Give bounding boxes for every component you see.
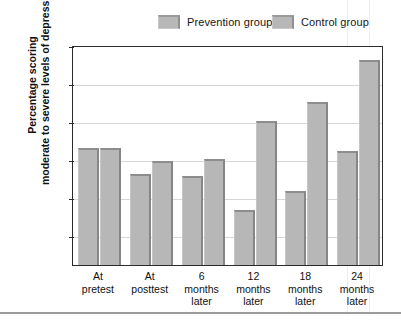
x-axis-label-line: At	[124, 270, 176, 283]
x-axis-label: 24monthslater	[331, 270, 383, 308]
legend-item-prevention-group: Prevention group	[158, 12, 272, 32]
chart-legend: Prevention group Control group	[72, 12, 383, 34]
x-axis-label-line: At	[72, 270, 124, 283]
chart-figure: Prevention group Control group Percentag…	[0, 0, 401, 325]
x-axis-label: 6monthslater	[176, 270, 228, 308]
legend-label-prevention-group: Prevention group	[187, 16, 272, 28]
bar-group	[182, 47, 224, 265]
x-axis-label: Atpretest	[72, 270, 124, 295]
bar-group	[285, 47, 327, 265]
bar-control	[359, 60, 380, 265]
bar-group	[78, 47, 120, 265]
x-axis-label-line: months	[176, 283, 228, 296]
x-axis-label: 12monthslater	[227, 270, 279, 308]
x-axis-label-line: later	[227, 295, 279, 308]
x-axis-label-line: later	[176, 295, 228, 308]
bar-group	[337, 47, 379, 265]
x-axis-label-line: posttest	[124, 283, 176, 296]
legend-label-control-group: Control group	[301, 16, 369, 28]
bar-series-layer	[73, 47, 382, 265]
y-axis-title: Percentage scoring moderate to severe le…	[22, 0, 56, 190]
x-axis-label-line: 18	[279, 270, 331, 283]
x-axis-label-line: 6	[176, 270, 228, 283]
bar-prevention	[78, 148, 99, 265]
bar-prevention	[285, 191, 306, 265]
bar-group	[130, 47, 172, 265]
x-axis-label-line: later	[331, 295, 383, 308]
bar-control	[256, 121, 277, 265]
x-axis-label-line: pretest	[72, 283, 124, 296]
bar-prevention	[130, 174, 151, 265]
legend-swatch-icon	[158, 15, 180, 29]
x-axis-label-line: later	[279, 295, 331, 308]
bar-control	[152, 161, 173, 265]
bar-control	[204, 159, 225, 265]
y-axis-title-line-1: Percentage scoring	[26, 36, 39, 133]
bar-control	[100, 148, 121, 265]
x-axis-label-line: months	[331, 283, 383, 296]
y-axis-title-line-2: moderate to severe levels of depression	[39, 0, 52, 185]
bar-prevention	[337, 151, 358, 265]
x-axis-label-line: 12	[227, 270, 279, 283]
x-axis-labels: AtpretestAtposttest6monthslater12monthsl…	[72, 270, 383, 314]
plot-area: 01020304050	[72, 46, 383, 266]
legend-item-control-group: Control group	[272, 12, 369, 32]
footer-divider	[0, 312, 401, 314]
x-axis-label-line: 24	[331, 270, 383, 283]
x-axis-label-line: months	[227, 283, 279, 296]
bar-prevention	[234, 210, 255, 265]
x-axis-label: Atposttest	[124, 270, 176, 295]
legend-swatch-icon	[272, 15, 294, 29]
bar-control	[307, 102, 328, 265]
x-axis-label-line: months	[279, 283, 331, 296]
bar-group	[234, 47, 276, 265]
x-axis-label: 18monthslater	[279, 270, 331, 308]
bar-prevention	[182, 176, 203, 265]
